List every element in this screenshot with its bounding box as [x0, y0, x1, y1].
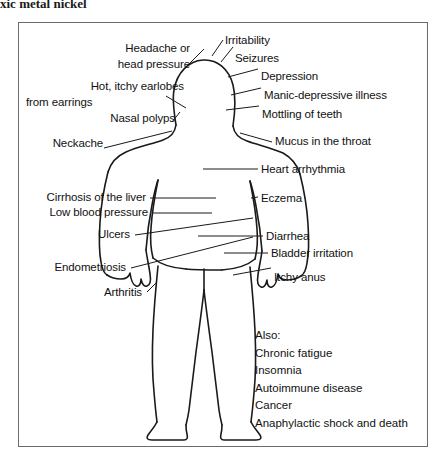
label-cirrhosis-of-the-liver: Cirrhosis of the liver — [26, 190, 146, 206]
label-endometriosis: Endometriosis — [38, 260, 126, 276]
label-depression: Depression — [261, 69, 318, 85]
also-item-insomnia: Insomnia — [255, 362, 408, 380]
label-ulcers: Ulcers — [60, 227, 130, 243]
also-item-autoimmune-disease: Autoimmune disease — [255, 380, 408, 398]
label-seizures: Seizures — [235, 51, 279, 67]
label-manic-depressive-illness: Manic-depressive illness — [264, 88, 387, 104]
label-hot-itchy-earlobes: Hot, itchy earlobes from earrings — [22, 79, 184, 110]
label-heart-arrhythmia: Heart arrhythmia — [261, 162, 345, 178]
label-nasal-polyps: Nasal polyps — [30, 111, 175, 127]
label-bladder-irritation: Bladder irritation — [271, 246, 353, 262]
also-list: Also: Chronic fatigue Insomnia Autoimmun… — [255, 327, 408, 432]
label-eczema: Eczema — [261, 191, 302, 207]
label-headache: Headache or head pressure — [30, 41, 190, 72]
label-neckache: Neckache — [25, 136, 103, 152]
label-arthritis: Arthritis — [62, 285, 142, 301]
also-item-cancer: Cancer — [255, 397, 408, 415]
label-mucus-in-the-throat: Mucus in the throat — [275, 134, 371, 150]
page-heading: xic metal nickel — [0, 0, 447, 8]
label-irritability: Irritability — [225, 33, 270, 49]
label-mottling-of-teeth: Mottling of teeth — [262, 107, 342, 123]
label-itchy-anus: Itchy anus — [274, 270, 325, 286]
label-low-blood-pressure: Low blood pressure — [30, 205, 148, 221]
also-heading: Also: — [255, 327, 408, 345]
also-item-chronic-fatigue: Chronic fatigue — [255, 345, 408, 363]
also-item-anaphylactic-shock: Anaphylactic shock and death — [255, 415, 408, 433]
label-diarrhea: Diarrhea — [266, 229, 309, 245]
page-heading-text: xic metal nickel — [0, 0, 87, 8]
